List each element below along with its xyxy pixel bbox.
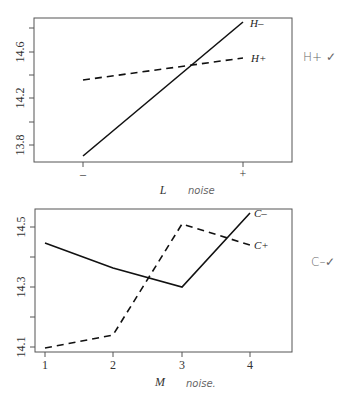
bottom-y-ticks xyxy=(30,227,35,347)
bottom-xtick-3: 3 xyxy=(179,358,185,372)
bottom-handwritten-noise: noise. xyxy=(186,378,216,389)
bottom-interaction-plot: 14.5 14.3 14.1 1 2 3 4 M noise. C– C+ C–… xyxy=(14,207,335,389)
bottom-x-ticks xyxy=(45,352,250,357)
bottom-xtick-1: 1 xyxy=(42,358,48,372)
bottom-ytick-14.5: 14.5 xyxy=(14,217,28,238)
top-handwritten-check: H+ ✓ xyxy=(303,50,336,64)
bottom-x-axis-label: M xyxy=(154,375,166,389)
bottom-handwritten-check: C–✓ xyxy=(311,255,335,269)
top-xtick-minus: – xyxy=(79,167,87,181)
interaction-plots: 14.6 14.2 13.8 – + L noise H– H+ H+ ✓ 14… xyxy=(0,0,357,404)
series-label-c-plus: C+ xyxy=(254,239,269,251)
bottom-plot-frame xyxy=(35,209,292,352)
top-handwritten-noise: noise xyxy=(188,185,215,196)
series-h-minus-line xyxy=(83,22,243,156)
top-ytick-14.2: 14.2 xyxy=(13,88,27,109)
bottom-xtick-2: 2 xyxy=(110,358,116,372)
bottom-ytick-14.3: 14.3 xyxy=(14,277,28,298)
top-ytick-14.6: 14.6 xyxy=(13,42,27,63)
bottom-xtick-4: 4 xyxy=(247,358,253,372)
series-h-plus-line xyxy=(83,58,243,80)
top-x-axis-label: L xyxy=(159,183,167,197)
series-label-h-plus: H+ xyxy=(250,52,266,64)
series-c-plus-line xyxy=(45,224,250,348)
series-label-h-minus: H– xyxy=(249,17,264,29)
bottom-ytick-14.1: 14.1 xyxy=(14,337,28,358)
top-interaction-plot: 14.6 14.2 13.8 – + L noise H– H+ H+ ✓ xyxy=(13,17,336,197)
top-ytick-13.8: 13.8 xyxy=(13,135,27,156)
top-y-ticks xyxy=(29,28,34,145)
series-c-minus-line xyxy=(45,213,250,287)
series-label-c-minus: C– xyxy=(254,207,267,219)
top-x-ticks xyxy=(83,162,243,167)
top-xtick-plus: + xyxy=(240,167,247,181)
